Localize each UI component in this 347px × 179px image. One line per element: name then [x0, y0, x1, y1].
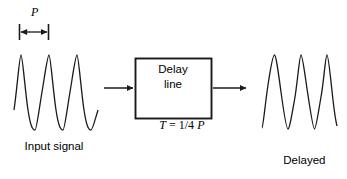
formula-value: 1/4 — [179, 118, 194, 132]
period-dimension-marker — [20, 24, 49, 40]
figure-canvas: P Delay line T = 1/4 P Input signal Dela… — [0, 0, 347, 179]
output-signal-caption: Delayed output signal — [250, 140, 346, 179]
input-signal-caption: Input signal — [8, 140, 100, 154]
block-formula: T = 1/4 P — [135, 96, 211, 153]
output-waveform — [262, 55, 337, 129]
block-label-line2: line — [135, 78, 211, 92]
period-label: P — [31, 5, 38, 19]
formula-unit-P: P — [197, 118, 204, 132]
formula-operator: = — [166, 118, 179, 132]
input-waveform — [14, 55, 98, 130]
formula-symbol-T: T — [159, 118, 166, 132]
block-label-line1: Delay — [135, 63, 211, 77]
output-caption-line1: Delayed — [283, 154, 325, 166]
